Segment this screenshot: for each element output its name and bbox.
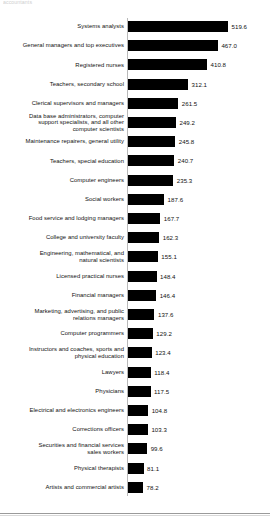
bar-value-label: 118.4 bbox=[154, 367, 169, 378]
bar bbox=[128, 213, 160, 224]
bar-value-label: 519.6 bbox=[232, 21, 248, 32]
bar-row-label: Computer programmers bbox=[2, 330, 124, 337]
bar bbox=[128, 40, 218, 51]
horizontal-bar-chart: Systems analysts519.6General managers an… bbox=[0, 18, 270, 500]
bar-row-label: Social workers bbox=[2, 196, 124, 203]
bar-value-label: 167.7 bbox=[164, 213, 180, 224]
bar-value-label: 129.2 bbox=[156, 328, 172, 339]
bar-row-label: Physicians bbox=[2, 388, 124, 395]
bar bbox=[128, 290, 156, 301]
chart-page: accountants Systems analysts519.6General… bbox=[0, 0, 270, 523]
bar-row-label: Maintenance repairers, general utility bbox=[2, 138, 124, 145]
bar-row-label: College and university faculty bbox=[2, 234, 124, 241]
bar-row-label: Financial managers bbox=[2, 292, 124, 299]
bar-value-label: 249.2 bbox=[179, 117, 195, 128]
bar-value-label: 117.5 bbox=[154, 386, 169, 397]
bar bbox=[128, 59, 207, 70]
bar bbox=[128, 405, 148, 416]
bar bbox=[128, 367, 151, 378]
bar bbox=[128, 443, 147, 454]
bar bbox=[128, 386, 151, 397]
bar bbox=[128, 136, 175, 147]
bar-row-label: Instructors and coaches, sports andphysi… bbox=[2, 346, 124, 359]
bar-row-label: Teachers, special education bbox=[2, 158, 124, 165]
bar bbox=[128, 328, 153, 339]
bar-row-label: Engineering, mathematical, andnatural sc… bbox=[2, 250, 124, 263]
bar bbox=[128, 98, 178, 109]
bar bbox=[128, 175, 173, 186]
bar-value-label: 148.4 bbox=[160, 271, 176, 282]
bar bbox=[128, 424, 148, 435]
bar-row-label: General managers and top executives bbox=[2, 42, 124, 49]
bar-row-label: Clerical supervisors and managers bbox=[2, 100, 124, 107]
bar-value-label: 146.4 bbox=[160, 290, 176, 301]
bar bbox=[128, 347, 152, 358]
bar-value-label: 78.2 bbox=[147, 482, 159, 493]
bar bbox=[128, 117, 176, 128]
bar-value-label: 240.7 bbox=[178, 155, 194, 166]
bar bbox=[128, 79, 188, 90]
bar-row-label: Data base administrators, computersuppor… bbox=[2, 113, 124, 133]
bar-value-label: 467.0 bbox=[221, 40, 237, 51]
bar-row-label: Licensed practical nurses bbox=[2, 273, 124, 280]
footer-divider bbox=[0, 513, 270, 514]
bar bbox=[128, 463, 144, 474]
bar-value-label: 261.5 bbox=[182, 98, 198, 109]
bar bbox=[128, 232, 159, 243]
bar bbox=[128, 155, 174, 166]
bar-row-label: Physical therapists bbox=[2, 465, 124, 472]
bar-row-label: Systems analysts bbox=[2, 23, 124, 30]
bar bbox=[128, 251, 158, 262]
bar-row-label: Lawyers bbox=[2, 369, 124, 376]
bar bbox=[128, 482, 143, 493]
bar-row-label: Marketing, advertising, and publicrelati… bbox=[2, 308, 124, 321]
bar-row-label: Artists and commercial artists bbox=[2, 484, 124, 491]
bar-row-label: Electrical and electronics engineers bbox=[2, 407, 124, 414]
bar-row-label: Food service and lodging managers bbox=[2, 215, 124, 222]
bar-value-label: 410.8 bbox=[211, 59, 227, 70]
bar-row-label: Teachers, secondary school bbox=[2, 81, 124, 88]
bar-value-label: 81.1 bbox=[147, 463, 159, 474]
footer-divider-shadow bbox=[0, 515, 270, 516]
bar-row-label: Registered nurses bbox=[2, 62, 124, 69]
bar-value-label: 104.8 bbox=[152, 405, 168, 416]
bar-row-label: Securities and financial servicessales w… bbox=[2, 442, 124, 455]
bar bbox=[128, 271, 157, 282]
bar-value-label: 155.1 bbox=[161, 251, 177, 262]
bar-value-label: 312.1 bbox=[192, 79, 208, 90]
bar bbox=[128, 21, 228, 32]
bar-value-label: 235.3 bbox=[177, 175, 193, 186]
bar bbox=[128, 194, 164, 205]
bar-value-label: 245.8 bbox=[179, 136, 195, 147]
bar bbox=[128, 309, 154, 320]
clipped-header-text: accountants bbox=[3, 0, 123, 6]
bar-value-label: 137.6 bbox=[158, 309, 174, 320]
bar-value-label: 99.6 bbox=[151, 443, 163, 454]
bar-row-label: Computer engineers bbox=[2, 177, 124, 184]
bar-value-label: 123.4 bbox=[155, 347, 171, 358]
bar-row: Artists and commercial artists78.2 bbox=[0, 482, 270, 506]
bar-value-label: 162.3 bbox=[163, 232, 179, 243]
bar-value-label: 187.6 bbox=[168, 194, 184, 205]
bar-row-label: Corrections officers bbox=[2, 426, 124, 433]
bar-value-label: 103.3 bbox=[151, 424, 167, 435]
